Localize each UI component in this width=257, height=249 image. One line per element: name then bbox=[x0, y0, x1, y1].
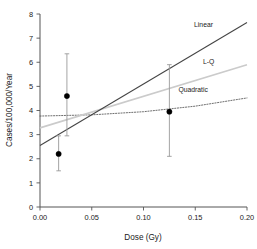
point-low-dose-a bbox=[56, 136, 61, 171]
data-point-marker bbox=[167, 109, 172, 114]
y-tick-label: 2 bbox=[29, 154, 33, 163]
x-tick-label: 0.20 bbox=[240, 213, 254, 222]
curve-quadratic bbox=[40, 98, 247, 116]
y-tick-label: 0 bbox=[29, 203, 33, 212]
curve-label-linear: Linear bbox=[194, 21, 214, 28]
x-tick-label: 0.05 bbox=[85, 213, 99, 222]
data-points-layer bbox=[56, 54, 172, 171]
y-tick-label: 1 bbox=[29, 179, 33, 188]
y-axis-ticks: 012345678 bbox=[29, 10, 40, 212]
curve-label-quadratic: Quadratic bbox=[178, 86, 208, 94]
y-tick-label: 4 bbox=[29, 106, 33, 115]
curve-label-l-q: L-Q bbox=[203, 58, 214, 66]
y-tick-label: 3 bbox=[29, 130, 33, 139]
y-tick-label: 8 bbox=[29, 10, 33, 19]
x-axis-title: Dose (Gy) bbox=[124, 233, 162, 242]
curve-annotations: LinearL-QQuadratic bbox=[178, 21, 214, 93]
curve-lq bbox=[40, 65, 247, 128]
y-tick-label: 6 bbox=[29, 58, 33, 67]
scatter-plot: 012345678 0.000.050.100.150.20 LinearL-Q… bbox=[0, 0, 257, 249]
series-layer bbox=[40, 22, 247, 145]
point-high-dose bbox=[167, 65, 172, 157]
x-tick-label: 0.15 bbox=[188, 213, 202, 222]
axes-group bbox=[40, 14, 247, 207]
chart-container: 012345678 0.000.050.100.150.20 LinearL-Q… bbox=[0, 0, 257, 249]
x-tick-label: 0.10 bbox=[136, 213, 150, 222]
point-low-dose-b bbox=[64, 54, 69, 136]
x-axis-ticks: 0.000.050.100.150.20 bbox=[33, 207, 254, 222]
y-axis-title: Cases/100,000/Year bbox=[5, 73, 14, 147]
data-point-marker bbox=[56, 151, 61, 156]
y-tick-label: 5 bbox=[29, 82, 33, 91]
x-tick-label: 0.00 bbox=[33, 213, 47, 222]
curve-linear bbox=[40, 22, 247, 145]
y-tick-label: 7 bbox=[29, 34, 33, 43]
data-point-marker bbox=[64, 93, 69, 98]
